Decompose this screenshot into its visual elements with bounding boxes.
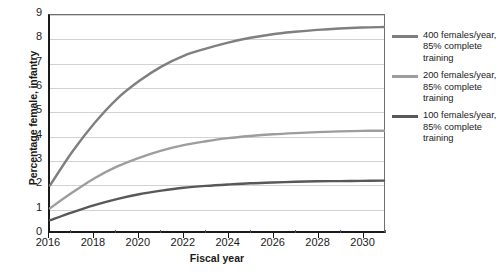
x-axis-tick-label: 2028 [296, 236, 340, 248]
series-line-2 [50, 181, 384, 221]
legend-item[interactable]: 100 females/year, 85% complete training [392, 110, 500, 144]
y-axis-tick-label: 8 [2, 30, 42, 42]
x-axis-tick-label: 2026 [251, 236, 295, 248]
legend-label: 100 females/year, 85% complete training [423, 110, 500, 144]
legend-swatch-icon [392, 75, 418, 78]
y-axis-tick-label: 9 [2, 6, 42, 18]
legend-item[interactable]: 200 females/year, 85% complete training [392, 70, 500, 104]
x-axis-minor-tick [340, 230, 341, 233]
x-axis-tick-label: 2016 [26, 236, 70, 248]
series-lines [50, 15, 384, 231]
series-line-1 [50, 131, 384, 209]
x-axis-tick-label: 2018 [71, 236, 115, 248]
y-axis-tick-label: 4 [2, 128, 42, 140]
x-axis-minor-tick [115, 230, 116, 233]
y-axis-tick-label: 5 [2, 103, 42, 115]
x-axis-tick-label: 2022 [161, 236, 205, 248]
x-axis-tick-label: 2020 [116, 236, 160, 248]
y-axis-tick-label: 3 [2, 152, 42, 164]
y-axis-tick-label: 7 [2, 55, 42, 67]
legend-label: 200 females/year, 85% complete training [423, 70, 500, 104]
x-axis-tick-label: 2030 [341, 236, 385, 248]
x-axis-minor-tick [250, 230, 251, 233]
y-axis-tick-label: 2 [2, 176, 42, 188]
legend-label: 400 females/year, 85% complete training [423, 30, 500, 64]
x-axis-minor-tick [70, 230, 71, 233]
x-axis-minor-tick [295, 230, 296, 233]
x-axis-title: Fiscal year [48, 252, 386, 264]
y-axis-tick-label: 6 [2, 79, 42, 91]
x-axis-tick-label: 2024 [206, 236, 250, 248]
legend-swatch-icon [392, 115, 418, 118]
x-axis-minor-tick [160, 230, 161, 233]
chart-legend: 400 females/year, 85% complete training2… [392, 30, 500, 151]
y-axis-tick-label: 1 [2, 201, 42, 213]
legend-swatch-icon [392, 35, 418, 38]
chart-figure: Percentage female, infantry 0123456789 2… [0, 0, 503, 274]
series-line-0 [50, 27, 384, 185]
x-axis-minor-tick [205, 230, 206, 233]
plot-area [48, 14, 385, 233]
legend-item[interactable]: 400 females/year, 85% complete training [392, 30, 500, 64]
x-axis-minor-tick [385, 230, 386, 233]
